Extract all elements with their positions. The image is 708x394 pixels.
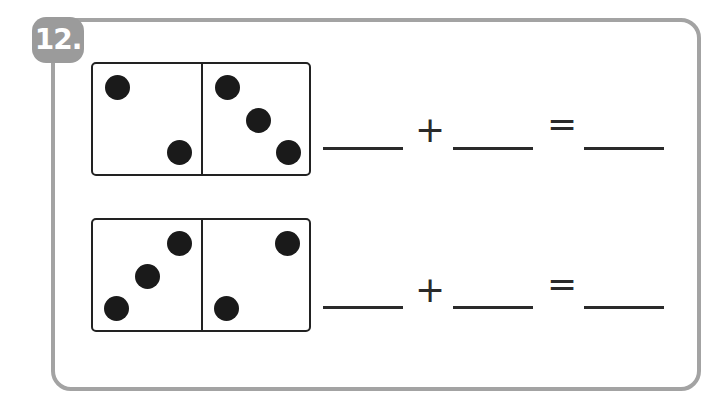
answer-blank-1-3[interactable]	[584, 147, 664, 150]
pip	[215, 75, 240, 100]
pip	[104, 296, 129, 321]
pip	[214, 296, 239, 321]
answer-blank-2-2[interactable]	[453, 306, 533, 309]
plus-sign: +	[415, 112, 445, 148]
pip	[275, 231, 300, 256]
domino-divider	[201, 64, 203, 174]
pip	[167, 231, 192, 256]
answer-blank-1-2[interactable]	[453, 147, 533, 150]
answer-blank-2-1[interactable]	[323, 306, 403, 309]
pip	[135, 264, 160, 289]
domino-2	[91, 218, 311, 332]
domino-1	[91, 62, 311, 176]
problem-number-badge: 12.	[32, 17, 84, 63]
answer-blank-2-3[interactable]	[584, 306, 664, 309]
plus-sign: +	[415, 272, 445, 308]
pip	[105, 75, 130, 100]
pip	[246, 108, 271, 133]
answer-blank-1-1[interactable]	[323, 147, 403, 150]
equals-sign: =	[547, 106, 577, 142]
domino-divider	[201, 220, 203, 330]
pip	[167, 140, 192, 165]
pip	[276, 140, 301, 165]
equals-sign: =	[547, 266, 577, 302]
